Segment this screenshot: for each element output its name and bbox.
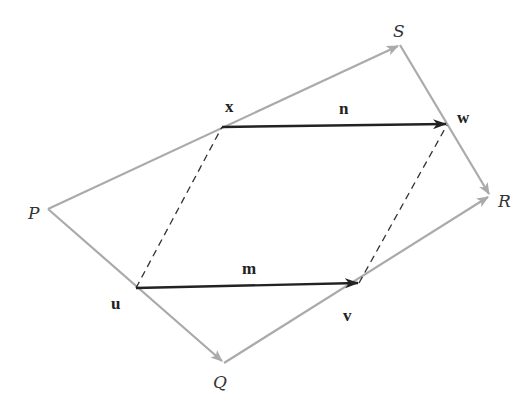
dashed-v-w bbox=[359, 125, 447, 283]
label-s: S bbox=[393, 21, 405, 41]
vector-n bbox=[222, 124, 446, 127]
edge-p-to-q bbox=[48, 209, 222, 361]
label-m: m bbox=[242, 259, 256, 278]
edge-s-to-r bbox=[400, 45, 489, 194]
label-p: P bbox=[27, 203, 40, 223]
vector-m bbox=[136, 283, 358, 288]
label-w: w bbox=[457, 108, 470, 127]
vector-parallelogram-diagram: P Q R S x w u v n m bbox=[0, 0, 521, 405]
label-n: n bbox=[339, 99, 349, 118]
label-q: Q bbox=[213, 372, 227, 392]
label-u: u bbox=[111, 294, 120, 313]
label-r: R bbox=[497, 191, 511, 211]
dashed-u-x bbox=[136, 127, 222, 288]
label-x: x bbox=[225, 97, 234, 116]
label-v: v bbox=[343, 306, 352, 325]
edge-q-to-r bbox=[224, 197, 488, 363]
